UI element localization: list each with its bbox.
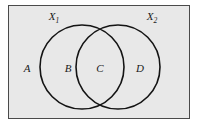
venn-diagram-figure: X1 X2 A B C D (0, 0, 199, 128)
region-label-b: B (65, 62, 72, 74)
region-label-d: D (135, 62, 144, 74)
region-label-a: A (23, 62, 31, 74)
region-label-c: C (96, 62, 104, 74)
venn-diagram-canvas: X1 X2 A B C D (0, 0, 199, 128)
